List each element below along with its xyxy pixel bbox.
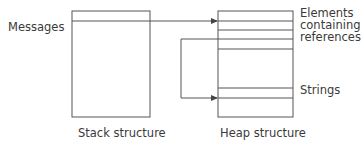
heap-caption: Heap structure: [220, 128, 306, 139]
elements-label-line3: references: [300, 32, 361, 43]
messages-label: Messages: [8, 22, 64, 33]
stack-caption: Stack structure: [78, 128, 166, 139]
reference-arrow-strings: [181, 39, 218, 98]
stack-box: [72, 11, 150, 117]
heap-box: [218, 11, 293, 117]
strings-label: Strings: [300, 85, 340, 96]
